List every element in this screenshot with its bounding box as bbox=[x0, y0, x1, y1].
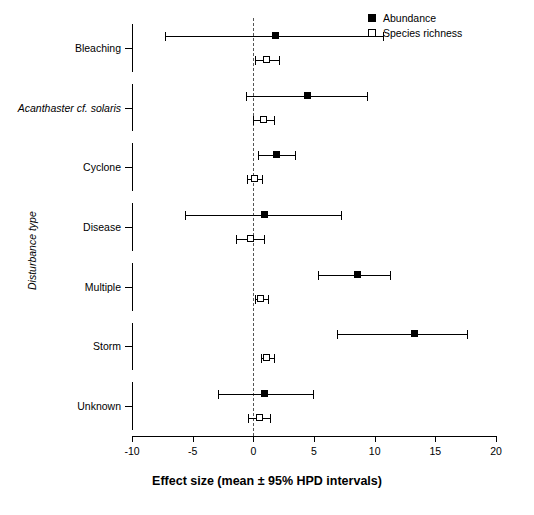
x-tick bbox=[314, 436, 315, 442]
ci-whisker bbox=[337, 334, 467, 335]
x-tick-label: -10 bbox=[124, 445, 139, 457]
open-square-icon bbox=[260, 116, 267, 123]
ci-cap bbox=[261, 354, 262, 363]
ci-cap bbox=[255, 56, 256, 65]
y-tick-label: Storm bbox=[93, 340, 121, 352]
filled-square-icon bbox=[261, 211, 268, 218]
x-tick bbox=[132, 436, 133, 442]
ci-cap bbox=[318, 271, 319, 280]
x-tick-label: 15 bbox=[429, 445, 441, 457]
y-tick bbox=[125, 346, 132, 347]
ci-cap bbox=[367, 92, 368, 101]
filled-square-icon bbox=[273, 151, 280, 158]
x-tick bbox=[193, 436, 194, 442]
y-tick-label: Unknown bbox=[77, 400, 121, 412]
x-tick bbox=[435, 436, 436, 442]
ci-cap bbox=[390, 271, 391, 280]
ci-cap bbox=[341, 211, 342, 220]
y-tick bbox=[125, 227, 132, 228]
y-tick-label: Disease bbox=[83, 221, 121, 233]
forest-plot-chart: Abundance Species richness BleachingAcan… bbox=[0, 0, 534, 515]
y-spine-segment bbox=[132, 263, 133, 311]
x-tick bbox=[496, 436, 497, 442]
y-tick-label: Acanthaster cf. solaris bbox=[18, 102, 121, 114]
x-tick-label: 20 bbox=[490, 445, 502, 457]
y-spine-segment bbox=[132, 323, 133, 371]
y-tick bbox=[125, 406, 132, 407]
ci-cap bbox=[165, 32, 166, 41]
ci-cap bbox=[246, 92, 247, 101]
y-axis-title: Disturbance type bbox=[26, 211, 38, 290]
x-tick-label: 5 bbox=[311, 445, 317, 457]
ci-cap bbox=[337, 330, 338, 339]
ci-cap bbox=[264, 235, 265, 244]
x-tick-label: 0 bbox=[250, 445, 256, 457]
y-tick bbox=[125, 48, 132, 49]
x-tick bbox=[375, 436, 376, 442]
y-spine-segment bbox=[132, 143, 133, 191]
ci-cap bbox=[236, 235, 237, 244]
ci-cap bbox=[258, 151, 259, 160]
filled-square-icon bbox=[272, 32, 279, 39]
open-square-icon bbox=[247, 235, 254, 242]
open-square-icon bbox=[251, 175, 258, 182]
ci-cap bbox=[262, 175, 263, 184]
ci-cap bbox=[218, 390, 219, 399]
open-square-icon bbox=[257, 295, 264, 302]
y-spine-segment bbox=[132, 203, 133, 251]
y-tick-label: Multiple bbox=[85, 281, 121, 293]
ci-cap bbox=[185, 211, 186, 220]
ci-cap bbox=[248, 414, 249, 423]
filled-square-icon bbox=[304, 92, 311, 99]
ci-cap bbox=[253, 116, 254, 125]
y-spine-segment bbox=[132, 382, 133, 430]
filled-square-icon bbox=[261, 390, 268, 397]
ci-cap bbox=[255, 295, 256, 304]
x-tick-label: 10 bbox=[369, 445, 381, 457]
x-tick-label: -5 bbox=[188, 445, 197, 457]
plot-area: BleachingAcanthaster cf. solarisCycloneD… bbox=[132, 18, 496, 436]
open-square-icon bbox=[263, 56, 270, 63]
ci-cap bbox=[313, 390, 314, 399]
y-spine-segment bbox=[132, 24, 133, 72]
zero-reference-line bbox=[253, 18, 254, 436]
y-tick-label: Bleaching bbox=[75, 42, 121, 54]
y-tick-label: Cyclone bbox=[83, 161, 121, 173]
ci-cap bbox=[383, 32, 384, 41]
ci-cap bbox=[279, 56, 280, 65]
y-tick bbox=[125, 167, 132, 168]
ci-cap bbox=[247, 175, 248, 184]
ci-cap bbox=[274, 116, 275, 125]
x-tick bbox=[253, 436, 254, 442]
filled-square-icon bbox=[411, 330, 418, 337]
y-tick bbox=[125, 287, 132, 288]
ci-cap bbox=[268, 295, 269, 304]
y-spine-segment bbox=[132, 84, 133, 132]
x-axis-title: Effect size (mean ± 95% HPD intervals) bbox=[0, 474, 534, 488]
filled-square-icon bbox=[354, 271, 361, 278]
y-tick bbox=[125, 108, 132, 109]
ci-cap bbox=[467, 330, 468, 339]
ci-cap bbox=[295, 151, 296, 160]
ci-cap bbox=[274, 354, 275, 363]
open-square-icon bbox=[263, 354, 270, 361]
open-square-icon bbox=[256, 414, 263, 421]
ci-cap bbox=[270, 414, 271, 423]
